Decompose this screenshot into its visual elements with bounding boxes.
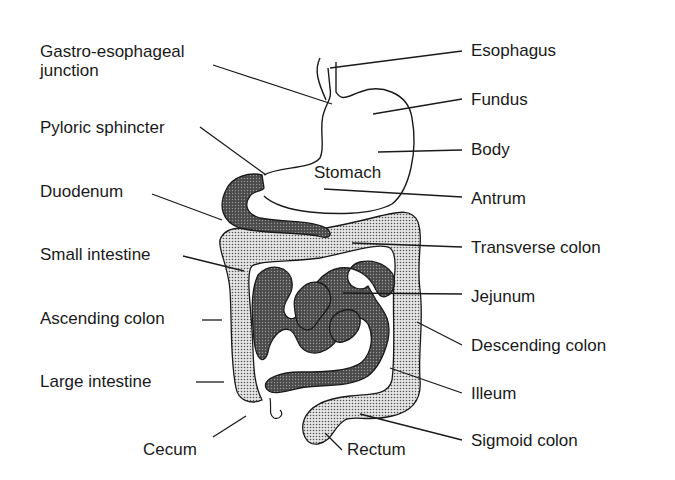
label-large-intestine: Large intestine (40, 372, 152, 391)
esophagus-left-wall (317, 58, 326, 100)
appendix-shape (270, 398, 282, 418)
label-antrum: Antrum (471, 189, 526, 208)
label-jejunum: Jejunum (471, 287, 535, 306)
label-gastro-esophageal-junction: Gastro-esophageal junction (40, 42, 185, 80)
label-duodenum: Duodenum (40, 182, 123, 201)
label-line-2: junction (40, 61, 185, 80)
label-pyloric-sphincter: Pyloric sphincter (40, 118, 165, 137)
label-sigmoid-colon: Sigmoid colon (471, 431, 578, 450)
label-transverse-colon: Transverse colon (471, 238, 601, 257)
small-intestine-shape (252, 261, 394, 392)
label-cecum: Cecum (143, 440, 197, 459)
digestive-diagram: Gastro-esophageal junction Pyloric sphin… (0, 0, 675, 480)
label-descending-colon: Descending colon (471, 336, 606, 355)
stomach-shape (264, 62, 414, 214)
label-body: Body (471, 140, 510, 159)
duodenum-shape (222, 174, 330, 237)
label-small-intestine: Small intestine (40, 245, 151, 264)
label-esophagus: Esophagus (471, 41, 556, 60)
label-line-1: Gastro-esophageal (40, 42, 185, 61)
label-rectum: Rectum (347, 440, 406, 459)
label-fundus: Fundus (471, 90, 528, 109)
label-stomach: Stomach (314, 163, 381, 182)
label-ascending-colon: Ascending colon (40, 309, 165, 328)
label-illeum: Illeum (471, 384, 516, 403)
